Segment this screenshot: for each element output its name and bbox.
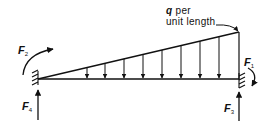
force-symbol: F <box>244 56 251 68</box>
force-label-f1: F1 <box>244 56 254 69</box>
force-subscript: 4 <box>29 107 32 113</box>
force-subscript: 2 <box>25 51 28 57</box>
load-label-per: per <box>176 5 191 16</box>
beam-diagram <box>0 0 276 136</box>
force-label-f4: F4 <box>22 100 32 113</box>
right-fixed-support <box>239 73 245 88</box>
load-label-leader <box>216 25 238 31</box>
force-label-f3: F3 <box>224 102 234 115</box>
force-symbol: F <box>22 100 29 112</box>
load-arrows <box>87 37 219 78</box>
load-label: q per unit length <box>166 5 215 27</box>
load-symbol: q <box>166 5 172 16</box>
force-symbol: F <box>224 102 231 114</box>
left-fixed-support <box>32 70 38 85</box>
force-symbol: F <box>18 44 25 56</box>
load-label-line1: q per <box>166 5 215 16</box>
moment-arrow-f1 <box>248 68 255 86</box>
force-label-f2: F2 <box>18 44 28 57</box>
force-subscript: 1 <box>251 63 254 69</box>
load-line <box>38 32 239 79</box>
load-label-line2: unit length <box>166 16 215 27</box>
force-subscript: 3 <box>231 109 234 115</box>
